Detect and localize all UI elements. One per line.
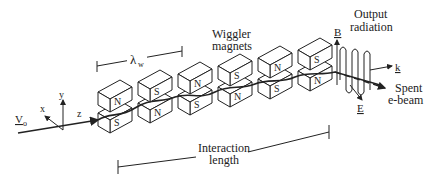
svg-text:S: S <box>274 83 280 94</box>
svg-text:N: N <box>274 62 281 73</box>
svg-text:N: N <box>154 107 161 118</box>
e-field-label: E <box>357 102 364 114</box>
svg-text:N: N <box>234 91 241 102</box>
velocity-subscript: o <box>23 119 27 128</box>
fel-wiggler-diagram: λ w Wiggler magnets Output radiation y x… <box>0 0 434 189</box>
spent-label-line2: e-beam <box>388 93 424 107</box>
lambda-subscript: w <box>138 60 144 69</box>
svg-text:N: N <box>314 75 321 86</box>
output-label-line1: Output <box>354 7 388 21</box>
svg-text:N: N <box>114 96 121 107</box>
wavelength-dimension: λ w <box>97 46 182 72</box>
axis-x-label: x <box>40 103 45 114</box>
lambda-label: λ <box>130 52 137 67</box>
k-vector-label: k <box>395 61 401 73</box>
svg-text:S: S <box>194 99 200 110</box>
interaction-length-dimension: Interaction length <box>118 125 329 174</box>
wiggler-label-line2: magnets <box>212 39 252 53</box>
output-label-line2: radiation <box>350 20 393 34</box>
velocity-label: V <box>15 113 23 125</box>
svg-text:S: S <box>234 70 240 81</box>
svg-text:S: S <box>114 117 120 128</box>
svg-text:S: S <box>154 86 160 97</box>
svg-text:N: N <box>194 78 201 89</box>
b-field-label: B <box>334 26 341 38</box>
electron-beam-incoming <box>18 120 98 133</box>
svg-text:S: S <box>314 54 320 65</box>
interaction-label-line2: length <box>209 153 239 167</box>
axis-y-label: y <box>59 89 64 100</box>
axis-z-label: z <box>77 108 82 119</box>
